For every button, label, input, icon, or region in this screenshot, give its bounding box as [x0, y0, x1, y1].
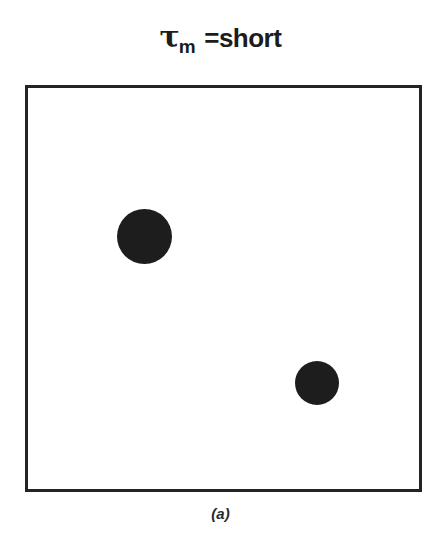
- tau-subscript: m: [179, 36, 195, 57]
- particle-2: [295, 361, 339, 405]
- plot-area: [28, 88, 419, 489]
- particle-1: [117, 209, 172, 264]
- figure-root: τm=short (a): [0, 0, 441, 560]
- tau-symbol: τ: [160, 19, 180, 54]
- figure-title: τm=short: [0, 22, 441, 56]
- title-relation: =short: [204, 23, 281, 53]
- plot-frame: [25, 85, 422, 492]
- figure-caption: (a): [0, 506, 441, 521]
